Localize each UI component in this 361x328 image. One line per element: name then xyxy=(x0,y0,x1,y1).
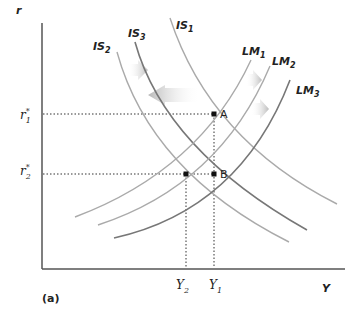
x-axis-label: Y xyxy=(322,282,331,295)
svg-text:r*1: r*1 xyxy=(20,107,31,125)
tick-r1: r*1 xyxy=(20,107,31,125)
is1-label: IS1 xyxy=(176,19,194,34)
tick-y1: Y1 xyxy=(209,278,222,295)
is3-curve xyxy=(135,42,307,230)
svg-text:r*2: r*2 xyxy=(20,163,31,181)
svg-text:Y1: Y1 xyxy=(209,278,222,295)
point-b-label: B xyxy=(220,168,228,181)
svg-text:Y2: Y2 xyxy=(176,278,189,295)
point-a-label: A xyxy=(220,108,228,121)
intermediate-point-marker xyxy=(184,172,189,177)
is2-label: IS2 xyxy=(93,40,111,55)
is-lm-diagram: A B r Y r*1 r*2 Y2 Y1 IS1 IS3 IS2 LM1 LM… xyxy=(0,0,361,328)
lm-shift-right-arrow-2 xyxy=(251,99,269,119)
y-axis-label: r xyxy=(16,4,22,17)
is3-label: IS3 xyxy=(128,27,146,42)
panel-label: (a) xyxy=(42,292,59,305)
tick-r2: r*2 xyxy=(20,163,31,181)
tick-y2: Y2 xyxy=(176,278,189,295)
lm3-label: LM3 xyxy=(296,84,320,99)
lm2-label: LM2 xyxy=(272,55,296,70)
point-a-marker xyxy=(212,112,217,117)
is-shift-left-arrow xyxy=(148,85,200,105)
point-b-marker xyxy=(212,172,217,177)
lm1-curve xyxy=(75,60,251,217)
lm1-label: LM1 xyxy=(242,45,266,60)
